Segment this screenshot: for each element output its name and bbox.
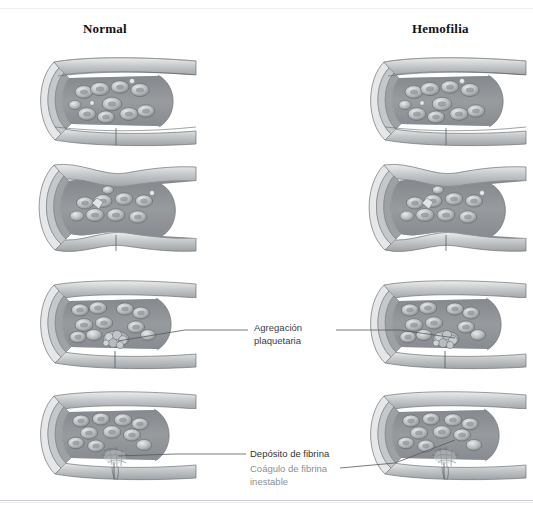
annotation-coagulo-de-fibrina-inestable: Coágulo de fibrina inestable	[250, 463, 336, 488]
vessel-hemofilia-stage-3	[358, 273, 528, 376]
vessel-normal-stage-1	[28, 48, 198, 151]
page-rule-bottom	[0, 500, 533, 501]
vessel-hemofilia-stage-1	[358, 48, 528, 151]
figure-page: Normal Hemofilia	[0, 0, 533, 517]
annotation-deposito-de-fibrina: Depósito de fibrina	[250, 448, 342, 461]
vessel-hemofilia-stage-2	[358, 155, 528, 258]
page-rule-top	[0, 8, 533, 9]
vessel-normal-stage-2	[28, 155, 198, 258]
vessel-normal-stage-3	[28, 273, 198, 376]
vessel-hemofilia-stage-4	[358, 385, 528, 488]
vessel-normal-stage-4	[28, 385, 198, 488]
page-rule-bottom-shadow	[0, 502, 533, 503]
column-title-normal: Normal	[83, 21, 127, 37]
column-title-hemofilia: Hemofilia	[412, 21, 469, 37]
annotation-agregacion-plaquetaria: Agregación plaquetaria	[254, 322, 332, 347]
